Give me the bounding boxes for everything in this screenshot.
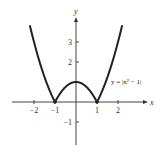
x-tick-label: 2: [116, 106, 120, 115]
zero-point: [53, 100, 57, 104]
y-tick-label: 2: [68, 58, 72, 67]
equation-annotation: y = |x² − 1|: [111, 78, 141, 86]
axes: x y: [12, 7, 154, 145]
x-axis-arrow-icon: [143, 100, 148, 104]
y-tick-label: 3: [68, 38, 72, 47]
x-tick-label: −1: [51, 106, 60, 115]
x-tick-label: −2: [30, 106, 39, 115]
x-tick-label: 1: [95, 106, 99, 115]
y-axis-arrow-icon: [74, 17, 78, 22]
y-axis-label: y: [73, 7, 78, 16]
zero-point: [95, 100, 99, 104]
chart: x y −2−11232−1 y = |x² − 1|: [0, 0, 168, 153]
y-tick-label: −1: [63, 118, 72, 127]
x-axis-label: x: [149, 98, 154, 107]
